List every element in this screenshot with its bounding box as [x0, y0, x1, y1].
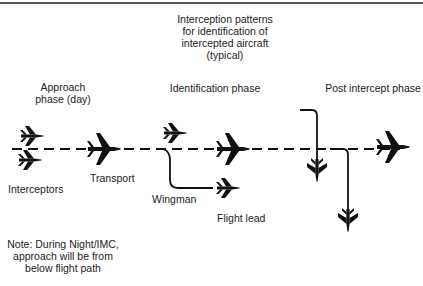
interceptor-aircraft-icon: [20, 126, 44, 146]
wingman-aircraft-icon: [163, 123, 187, 143]
transport-aircraft-icon: [87, 133, 121, 165]
flight-lead-aircraft-icon: [216, 178, 240, 198]
interceptor-aircraft-icon: [18, 150, 42, 170]
interception-diagram: [0, 0, 423, 286]
breakaway-aircraft-icon: [307, 158, 327, 182]
transport-aircraft-icon: [216, 133, 250, 165]
flight-lead-path: [163, 149, 213, 188]
transport-aircraft-icon: [376, 131, 410, 163]
breakaway-path-2: [330, 149, 348, 210]
breakaway-aircraft-icon: [338, 208, 358, 232]
breakaway-path-1: [300, 110, 317, 160]
